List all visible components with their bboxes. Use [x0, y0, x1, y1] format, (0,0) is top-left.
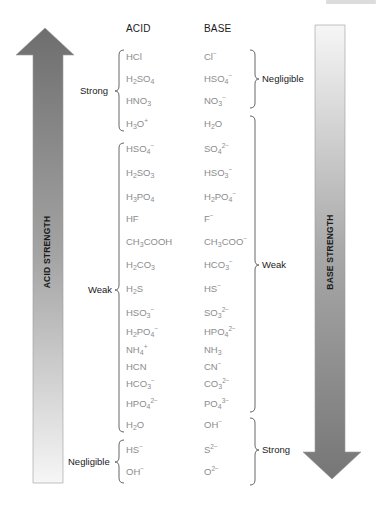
base-formula: H2PO4− [204, 191, 236, 203]
base-formula: H2O [204, 118, 222, 130]
acid-column-header: ACID [126, 23, 151, 34]
base-formula: SO32− [204, 307, 229, 319]
base-formula: OH− [204, 419, 222, 431]
acid-group-weak-label: Weak [88, 284, 112, 296]
base-group-negligible-label: Negligible [262, 73, 304, 85]
acid-formula: HF [126, 213, 139, 225]
base-formula: HSO3− [204, 167, 232, 179]
acid-formula: H3PO4 [126, 191, 154, 203]
base-formula: F− [204, 213, 214, 225]
base-formula: CO32− [204, 378, 230, 390]
acid-formula: HS− [126, 444, 143, 456]
acid-group-negligible-label: Negligible [68, 456, 110, 468]
acid-formula: HNO3 [126, 95, 151, 107]
acid-formula: H2SO3 [126, 167, 154, 179]
base-formula: S2− [204, 444, 218, 456]
acid-formula: H2SO4 [126, 73, 154, 85]
acid-formula: H2S [126, 283, 143, 295]
acid-formula: NH4+ [126, 344, 147, 356]
base-group-weak-label: Weak [262, 259, 286, 271]
base-formula: HPO42− [204, 326, 236, 338]
base-group-strong-label: Strong [262, 444, 290, 456]
acid-formula: HSO3− [126, 307, 154, 319]
acid-strength-label: ACID STRENGTH [42, 207, 52, 297]
base-formula: HCO3− [204, 259, 233, 271]
acid-formula: HCO3− [126, 378, 155, 390]
acid-formula: HCl [126, 51, 142, 63]
strength-arrows [0, 0, 378, 510]
acid-formula: HPO42− [126, 398, 158, 410]
base-formula: SO42− [204, 143, 229, 155]
base-formula: Cl− [204, 51, 217, 63]
base-strength-label: BASE STRENGTH [325, 207, 335, 297]
acid-formula: HSO4− [126, 143, 154, 155]
base-formula: CN− [204, 361, 222, 373]
base-column-header: BASE [204, 23, 231, 34]
base-formula: CH3COO− [204, 236, 247, 248]
acid-group-strong-label: Strong [80, 85, 108, 97]
base-formula: HS− [204, 283, 221, 295]
acid-formula: OH− [126, 466, 144, 478]
base-formula: O2− [204, 466, 219, 478]
acid-formula: H2O [126, 419, 144, 431]
base-formula: NO3− [204, 95, 226, 107]
acid-formula: H2PO4− [126, 326, 158, 338]
acid-formula: HCN [126, 361, 147, 373]
base-formula: NH3 [204, 344, 222, 356]
acid-formula: H3O+ [126, 118, 148, 130]
base-formula: PO43− [204, 398, 229, 410]
acid-formula: CH3COOH [126, 236, 172, 248]
acid-formula: H2CO3 [126, 259, 155, 271]
base-formula: HSO4− [204, 73, 232, 85]
